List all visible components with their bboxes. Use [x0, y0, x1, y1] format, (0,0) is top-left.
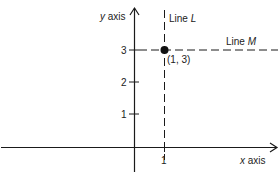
point-label: (1, 3) — [167, 54, 190, 65]
line-l-label: Line L — [169, 13, 196, 24]
y-tick-label-3: 3 — [121, 45, 127, 56]
y-tick-label-1: 1 — [121, 109, 127, 120]
y-axis-label: y axis — [99, 11, 126, 22]
point-1-3 — [161, 46, 169, 54]
x-tick-label-1: 1 — [161, 155, 167, 166]
x-axis-label: x axis — [239, 155, 266, 166]
y-tick-label-2: 2 — [121, 77, 127, 88]
line-m-label: Line M — [226, 36, 257, 47]
coordinate-diagram: y axis x axis 3 2 1 1 Line L Line M (1, … — [0, 0, 280, 176]
